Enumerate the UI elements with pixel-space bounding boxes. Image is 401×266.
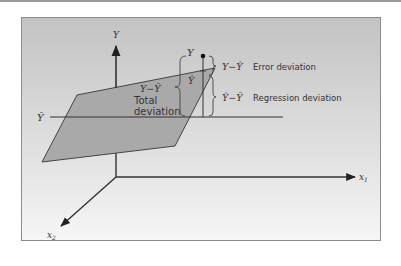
error-deviation-label: Error deviation: [253, 62, 316, 72]
regression-diagram: Y x1 x2 Ȳ Y−Ȳ Total deviation Y Ŷ Y−Ŷ Er…: [0, 0, 401, 266]
regression-deviation-label: Regression deviation: [253, 93, 342, 103]
total-deviation-formula: Y−Ȳ: [140, 83, 162, 94]
regression-deviation-formula: Ŷ−Ȳ: [222, 92, 244, 103]
total-deviation-label-1: Total: [133, 95, 157, 106]
total-deviation-label-2: deviation: [134, 106, 180, 117]
y-axis-label: Y: [113, 30, 120, 40]
error-deviation-formula: Y−Ŷ: [222, 61, 244, 72]
observed-point: [201, 54, 206, 59]
